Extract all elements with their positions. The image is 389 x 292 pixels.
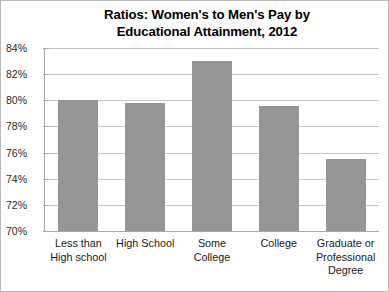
chart-title: Ratios: Women's to Men's Pay by Educatio… [31, 6, 383, 40]
chart-container: Ratios: Women's to Men's Pay by Educatio… [0, 0, 389, 292]
y-tick-mark-72% [43, 205, 49, 206]
x-axis-label-line: Degree [312, 264, 379, 278]
y-tick-label-82%: 82% [6, 69, 40, 79]
chart-title-line-2: Educational Attainment, 2012 [31, 23, 383, 40]
x-axis-label-3: College [245, 237, 312, 251]
x-axis-label-0: Less thanHigh school [45, 237, 112, 264]
y-tick-label-74%: 74% [6, 174, 40, 184]
y-tick-mark-78% [43, 126, 49, 127]
y-tick-mark-80% [43, 100, 49, 101]
bar[interactable] [192, 61, 232, 231]
x-axis-label-2: SomeCollege [179, 237, 246, 264]
x-axis-label-line: High School [112, 237, 179, 251]
bar-slot [45, 48, 112, 231]
y-tick-mark-84% [43, 48, 49, 49]
bar[interactable] [326, 159, 366, 231]
x-axis-label-line: College [179, 251, 246, 265]
x-axis-label-4: Graduate orProfessionalDegree [312, 237, 379, 278]
y-tick-mark-70% [43, 231, 49, 232]
gridline-70% [45, 231, 379, 232]
x-axis-labels: Less thanHigh schoolHigh SchoolSomeColle… [45, 237, 379, 291]
x-axis-label-line: Less than [45, 237, 112, 251]
bar[interactable] [58, 100, 98, 231]
y-axis-labels: 84%82%80%78%76%74%72%70% [6, 1, 40, 292]
y-tick-label-80%: 80% [6, 95, 40, 105]
y-tick-label-72%: 72% [6, 200, 40, 210]
x-axis-label-line: Graduate or [312, 237, 379, 251]
x-axis-label-line: Some [179, 237, 246, 251]
x-axis-label-line: College [245, 237, 312, 251]
chart-title-line-1: Ratios: Women's to Men's Pay by [31, 6, 383, 23]
bar-slot [312, 48, 379, 231]
y-tick-label-78%: 78% [6, 121, 40, 131]
y-tick-mark-76% [43, 153, 49, 154]
x-axis-label-line: High school [45, 251, 112, 265]
y-tick-label-70%: 70% [6, 226, 40, 236]
x-axis-label-1: High School [112, 237, 179, 251]
y-tick-label-76%: 76% [6, 148, 40, 158]
bar-slot [179, 48, 246, 231]
y-tick-mark-74% [43, 179, 49, 180]
x-axis-label-line: Professional [312, 251, 379, 265]
bar[interactable] [125, 103, 165, 231]
bar-slot [112, 48, 179, 231]
bars-layer [45, 48, 379, 231]
bar[interactable] [259, 106, 299, 231]
y-tick-mark-82% [43, 74, 49, 75]
y-tick-label-84%: 84% [6, 43, 40, 53]
bar-slot [245, 48, 312, 231]
